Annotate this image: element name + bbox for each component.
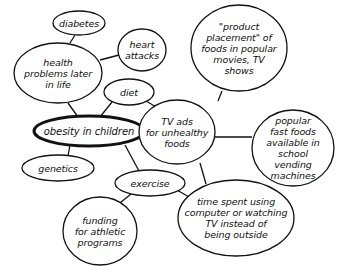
node-diet: diet: [120, 87, 138, 98]
node-time-spent: time spent using computer or watching TV…: [185, 196, 288, 240]
edge-tvads-timespent: [200, 163, 206, 184]
edge-obesity-genetics: [68, 145, 70, 156]
edge-diabetes-health: [70, 35, 75, 43]
edge-diet-obesity: [100, 102, 112, 117]
node-fast-foods: popular fast foods available in school v…: [263, 115, 324, 181]
node-obesity-in-children: obesity in children: [44, 126, 134, 137]
concept-map: diabetes heart attacks health problems l…: [0, 0, 354, 272]
node-funding: funding for athletic programs: [75, 215, 126, 248]
edge-tvads-product: [218, 91, 222, 101]
node-tv-ads: TV ads for unhealthy foods: [146, 116, 209, 149]
node-heart-attacks: heart attacks: [125, 39, 159, 61]
node-exercise: exercise: [130, 178, 169, 189]
node-health-problems: health problems later in life: [24, 57, 92, 90]
edge-obesity-exercise: [125, 145, 139, 171]
node-diabetes: diabetes: [59, 18, 99, 29]
node-product-placement: "product placement" of foods in popular …: [201, 21, 276, 76]
node-genetics: genetics: [38, 163, 77, 174]
edge-heart-health: [100, 55, 119, 60]
